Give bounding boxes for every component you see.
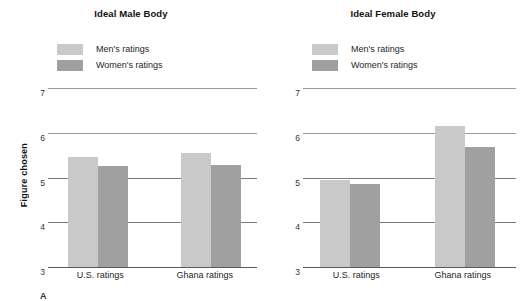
legend-label-womens-ratings: Women's ratings bbox=[351, 60, 418, 70]
legend-item-mens-ratings: Men's ratings bbox=[312, 41, 418, 57]
bar-u-s-ratings-women-s-ratings bbox=[350, 184, 380, 267]
y-tick-label-6: 6 bbox=[40, 133, 45, 144]
panel-title: Ideal Female Body bbox=[262, 8, 524, 19]
bar-u-s-ratings-men-s-ratings bbox=[320, 180, 350, 267]
figure-footer-mark: A bbox=[40, 291, 47, 300]
x-axis-label-1: Ghana ratings bbox=[153, 270, 258, 280]
y-tick-label-7: 7 bbox=[295, 88, 300, 99]
panel-title: Ideal Male Body bbox=[0, 8, 262, 19]
legend-label-womens-ratings: Women's ratings bbox=[96, 60, 163, 70]
legend-label-mens-ratings: Men's ratings bbox=[96, 44, 149, 54]
bar-u-s-ratings-women-s-ratings bbox=[98, 166, 128, 267]
legend-item-womens-ratings: Women's ratings bbox=[312, 57, 418, 73]
legend-item-womens-ratings: Women's ratings bbox=[57, 57, 163, 73]
legend-swatch-mens-ratings bbox=[312, 44, 338, 55]
legend-swatch-womens-ratings bbox=[57, 60, 83, 71]
gridline-7: 7 bbox=[303, 88, 516, 89]
gridline-3: 3 bbox=[48, 267, 257, 268]
gridline-6: 6 bbox=[48, 133, 257, 134]
legend: Men's ratings Women's ratings bbox=[312, 41, 418, 73]
x-axis-label-0: U.S. ratings bbox=[48, 270, 153, 280]
y-tick-label-6: 6 bbox=[295, 133, 300, 144]
gridline-3: 3 bbox=[303, 267, 516, 268]
legend-swatch-womens-ratings bbox=[312, 60, 338, 71]
y-tick-label-4: 4 bbox=[40, 222, 45, 233]
bar-ghana-ratings-women-s-ratings bbox=[211, 165, 241, 267]
x-axis-label-1: Ghana ratings bbox=[410, 270, 517, 280]
legend: Men's ratings Women's ratings bbox=[57, 41, 163, 73]
bar-ghana-ratings-women-s-ratings bbox=[465, 147, 495, 267]
legend-swatch-mens-ratings bbox=[57, 44, 83, 55]
y-tick-label-3: 3 bbox=[295, 267, 300, 278]
x-axis-label-0: U.S. ratings bbox=[303, 270, 410, 280]
x-axis-labels: U.S. ratingsGhana ratings bbox=[48, 270, 257, 284]
y-tick-label-3: 3 bbox=[40, 267, 45, 278]
y-tick-label-4: 4 bbox=[295, 222, 300, 233]
bar-ghana-ratings-men-s-ratings bbox=[435, 126, 465, 267]
x-axis-labels: U.S. ratingsGhana ratings bbox=[303, 270, 516, 284]
y-tick-label-5: 5 bbox=[40, 178, 45, 189]
two-panel-bar-chart-figure: Ideal Male Body Men's ratings Women's ra… bbox=[0, 0, 524, 301]
plot-area: 34567 bbox=[303, 88, 516, 267]
panel-ideal-female-body: Ideal Female Body Men's ratings Women's … bbox=[262, 0, 524, 301]
legend-label-mens-ratings: Men's ratings bbox=[351, 44, 404, 54]
gridline-6: 6 bbox=[303, 133, 516, 134]
y-axis-label: Figure chosen bbox=[19, 143, 33, 207]
bar-u-s-ratings-men-s-ratings bbox=[68, 157, 98, 267]
y-tick-label-7: 7 bbox=[40, 88, 45, 99]
bar-ghana-ratings-men-s-ratings bbox=[181, 153, 211, 267]
plot-area: 34567 bbox=[48, 88, 257, 267]
panel-ideal-male-body: Ideal Male Body Men's ratings Women's ra… bbox=[0, 0, 262, 301]
gridline-7: 7 bbox=[48, 88, 257, 89]
y-tick-label-5: 5 bbox=[295, 178, 300, 189]
legend-item-mens-ratings: Men's ratings bbox=[57, 41, 163, 57]
